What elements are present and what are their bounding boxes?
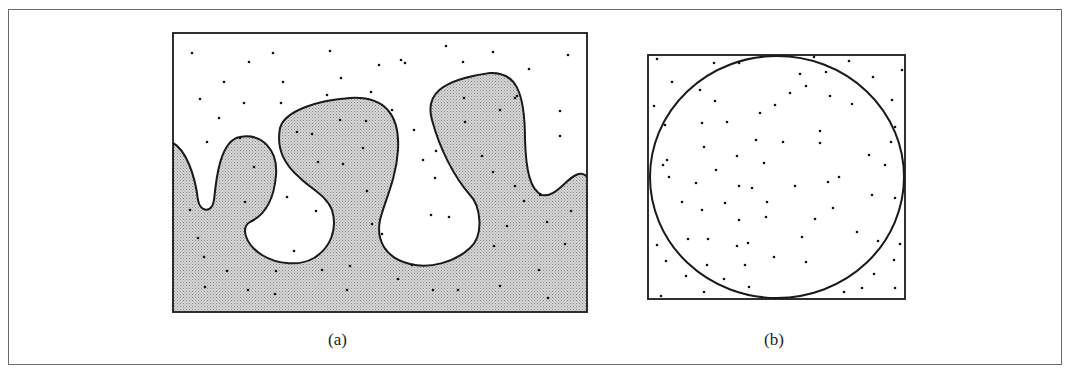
caption-b: (b)	[764, 330, 784, 350]
panel-a	[172, 33, 588, 313]
caption-a: (a)	[328, 330, 347, 350]
panel-b	[648, 55, 905, 299]
figure-svg	[0, 0, 1073, 375]
